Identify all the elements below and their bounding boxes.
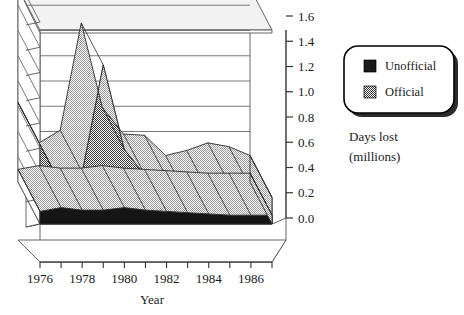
y-axis-tick-labels: 0.00.20.40.60.81.01.21.41.6 bbox=[298, 9, 315, 226]
x-tick-label: 1980 bbox=[111, 271, 137, 286]
x-tick-label: 1976 bbox=[27, 271, 54, 286]
legend-item-label-official[interactable]: Official bbox=[385, 85, 424, 99]
x-axis-tick-labels: 197619781980198219841986 bbox=[27, 262, 272, 286]
chart-figure: 0.00.20.40.60.81.01.21.41.6 197619781980… bbox=[0, 0, 464, 315]
y-tick-label: 1.4 bbox=[298, 34, 315, 49]
unit-caption-line2: (millions) bbox=[349, 149, 400, 164]
solid-black-swatch bbox=[364, 60, 376, 72]
x-tick-label: 1986 bbox=[238, 271, 265, 286]
x-tick-label: 1982 bbox=[154, 271, 180, 286]
y-tick-label: 1.0 bbox=[298, 84, 314, 99]
chart-axis-lines bbox=[286, 16, 293, 218]
y-tick-label: 0.8 bbox=[298, 110, 314, 125]
x-tick-label: 1978 bbox=[69, 271, 95, 286]
x-tick-label: 1984 bbox=[196, 271, 223, 286]
legend-frame bbox=[344, 46, 454, 113]
y-tick-label: 1.2 bbox=[298, 59, 314, 74]
legend: Unofficial Official bbox=[344, 46, 458, 117]
y-tick-label: 0.2 bbox=[298, 185, 314, 200]
chart-floor bbox=[18, 218, 286, 262]
x-axis-title: Year bbox=[140, 292, 165, 307]
unit-caption-line1: Days lost bbox=[349, 129, 398, 144]
y-tick-label: 0.4 bbox=[298, 160, 315, 175]
y-tick-label: 0.0 bbox=[298, 211, 314, 226]
checker-gray-swatch bbox=[364, 86, 376, 98]
y-tick-label: 0.6 bbox=[298, 135, 315, 150]
three-d-area-chart: 0.00.20.40.60.81.01.21.41.6 197619781980… bbox=[0, 0, 464, 315]
y-tick-label: 1.6 bbox=[298, 9, 315, 24]
legend-item-label-unofficial[interactable]: Unofficial bbox=[385, 59, 437, 73]
